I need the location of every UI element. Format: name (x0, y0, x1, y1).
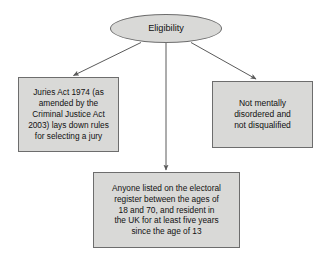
node-eligibility-root[interactable]: Eligibility (110, 14, 222, 43)
node-juries-act-label: Juries Act 1974 (as amended by the Crimi… (28, 87, 109, 142)
node-electoral-register[interactable]: Anyone listed on the electoral register … (93, 172, 240, 248)
eligibility-diagram: Eligibility Juries Act 1974 (as amended … (0, 0, 333, 262)
node-not-disqualified-label: Not mentally disordered and not disquali… (234, 98, 291, 132)
node-eligibility-root-label: Eligibility (148, 23, 184, 33)
arrow-to-juries-act (74, 43, 142, 76)
node-not-disqualified[interactable]: Not mentally disordered and not disquali… (212, 81, 313, 148)
arrow-to-not-disqualified (191, 43, 256, 80)
node-electoral-register-label: Anyone listed on the electoral register … (112, 183, 221, 238)
node-juries-act[interactable]: Juries Act 1974 (as amended by the Crimi… (18, 77, 119, 152)
